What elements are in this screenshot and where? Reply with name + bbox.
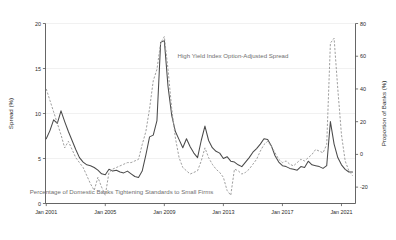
y2-axis-tick-label: 60: [360, 53, 366, 59]
y-axis-tick-label: 15: [35, 66, 41, 72]
series-line-bank-tightening: [46, 37, 352, 196]
chart-figure: 05101520-20020406080Jan 2001Jan 2005Jan …: [0, 0, 396, 240]
y2-axis-tick-label: 80: [360, 21, 366, 27]
y2-axis-title: Proportion of Banks (%): [380, 81, 387, 147]
x-axis-tick-label: Jan 2021: [330, 209, 352, 215]
y2-axis-tick-label: 40: [360, 86, 366, 92]
dual-axis-timeseries-chart: 05101520-20020406080Jan 2001Jan 2005Jan …: [0, 0, 396, 240]
x-axis-tick-label: Jan 2009: [153, 209, 175, 215]
y2-axis-tick-label: 0: [360, 151, 363, 157]
y-axis-tick-label: 20: [35, 21, 41, 27]
x-axis-tick-label: Jan 2013: [212, 209, 234, 215]
series-line-high-yield-spread: [46, 41, 352, 178]
y2-axis-tick-label: -20: [360, 184, 368, 190]
gridlines-group: [46, 24, 356, 204]
x-axis-tick-label: Jan 2005: [94, 209, 116, 215]
annotation-bank-tightening: Percentage of Domestic Banks Tightening …: [30, 188, 214, 195]
data-series-group: [46, 37, 352, 196]
y-axis-title: Spread (%): [7, 98, 14, 129]
y-axis-tick-label: 5: [38, 156, 41, 162]
y2-axis-tick-label: 20: [360, 119, 366, 125]
x-axis-tick-label: Jan 2001: [35, 209, 57, 215]
y-axis-tick-label: 0: [38, 201, 41, 207]
tick-labels-group: 05101520-20020406080Jan 2001Jan 2005Jan …: [35, 21, 368, 216]
y-axis-tick-label: 10: [35, 111, 41, 117]
x-axis-tick-label: Jan 2017: [271, 209, 293, 215]
annotation-high-yield-spread: High Yield Index Option-Adjusted Spread: [178, 52, 289, 59]
